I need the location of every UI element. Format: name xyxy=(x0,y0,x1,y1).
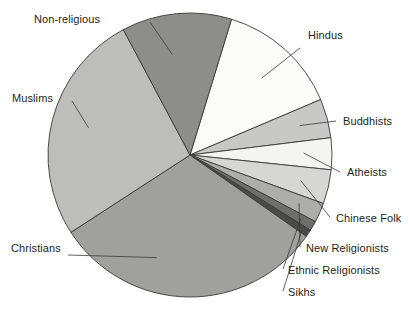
slice-label-buddhists: Buddhists xyxy=(343,116,392,127)
slice-label-hindus: Hindus xyxy=(308,30,343,41)
pie-slices-group xyxy=(48,13,332,297)
slice-label-new-religionists: New Religionists xyxy=(306,243,389,254)
pie-chart-figure: Non-religious Muslims Christians Hindus … xyxy=(0,0,409,310)
slice-label-non-religious: Non-religious xyxy=(34,14,100,25)
slice-label-atheists: Atheists xyxy=(347,167,387,178)
slice-label-muslims: Muslims xyxy=(12,93,53,104)
slice-label-sikhs: Sikhs xyxy=(288,287,315,298)
slice-label-ethnic-religionists: Ethnic Religionists xyxy=(288,265,380,276)
slice-label-chinese-folk: Chinese Folk xyxy=(336,213,401,224)
slice-label-christians: Christians xyxy=(11,243,61,254)
